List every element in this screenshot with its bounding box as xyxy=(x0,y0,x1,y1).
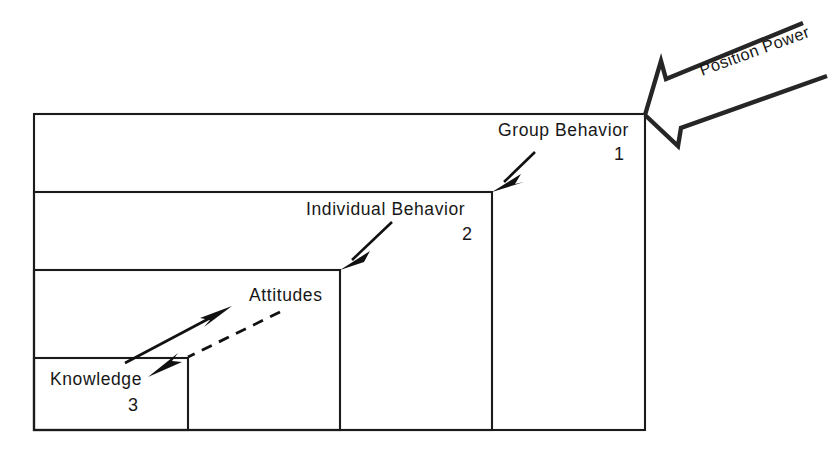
arrow-attitudes-to-knowledge xyxy=(148,312,280,377)
box-individual-behavior xyxy=(34,192,492,430)
arrow-3a-shaft xyxy=(125,318,210,363)
label-group-behavior: Group Behavior xyxy=(498,120,629,140)
arrow-1-shaft xyxy=(504,152,535,182)
label-knowledge: Knowledge xyxy=(50,369,142,389)
arrow-to-attitudes xyxy=(340,222,392,270)
arrow-knowledge-to-attitudes xyxy=(125,306,232,363)
diagram-canvas: Group Behavior 1 Individual Behavior 2 A… xyxy=(0,0,831,454)
arrow-3a-head xyxy=(200,306,232,327)
number-group-behavior: 1 xyxy=(614,144,624,164)
label-attitudes: Attitudes xyxy=(249,285,323,305)
label-position-power: Position Power xyxy=(697,22,812,79)
arrow-3b-shaft xyxy=(188,312,280,357)
arrow-2-head xyxy=(340,251,373,270)
number-individual-behavior: 2 xyxy=(462,224,472,244)
arrow-3b-head xyxy=(148,353,182,377)
arrow-to-individual-behavior xyxy=(492,152,535,192)
number-knowledge: 3 xyxy=(128,395,138,415)
label-individual-behavior: Individual Behavior xyxy=(306,199,465,219)
levels-of-change-diagram: Group Behavior 1 Individual Behavior 2 A… xyxy=(0,0,831,454)
arrow-2-shaft xyxy=(352,222,392,260)
